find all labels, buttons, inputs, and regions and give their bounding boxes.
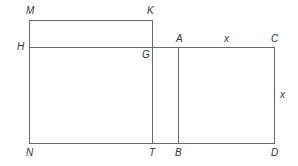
label-d: D (271, 147, 278, 158)
label-side-top-x: x (223, 33, 230, 44)
label-k: K (147, 5, 155, 16)
geometry-diagram: M K H G A x C x N T B D (0, 0, 298, 166)
label-m: M (26, 5, 35, 16)
label-n: N (26, 147, 34, 158)
label-b: B (175, 147, 182, 158)
label-side-right-x: x (279, 89, 286, 100)
label-h: H (17, 41, 25, 52)
label-t: T (149, 147, 156, 158)
label-a: A (175, 33, 183, 44)
label-g: G (142, 49, 150, 60)
label-c: C (271, 33, 279, 44)
